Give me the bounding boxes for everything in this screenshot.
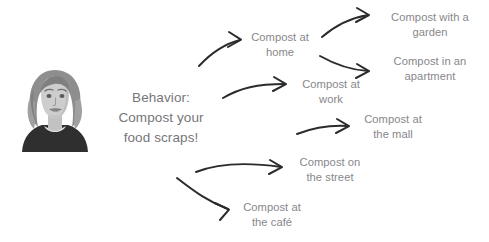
node-apartment-line-1: Compost in an [378, 54, 482, 69]
node-home-line-1: Compost at [243, 30, 317, 45]
node-compost-with-a-garden[interactable]: Compost with a garden [378, 10, 482, 39]
behavior-line-3: food scraps! [103, 128, 219, 148]
arrow-home-to-garden-icon [322, 8, 369, 37]
avatar [20, 66, 90, 152]
node-work-line-1: Compost at [294, 77, 368, 92]
behavior-tree-diagram: Behavior: Compost your food scraps! [0, 0, 489, 242]
node-compost-at-work[interactable]: Compost at work [294, 77, 368, 106]
node-mall-line-2: the mall [356, 127, 430, 142]
node-garden-line-2: garden [378, 25, 482, 40]
node-compost-at-home[interactable]: Compost at home [243, 30, 317, 59]
node-cafe-line-1: Compost at [234, 200, 310, 215]
node-cafe-line-2: the café [234, 215, 310, 230]
arrow-home-to-apartment-icon [320, 56, 369, 78]
node-work-line-2: work [294, 92, 368, 107]
behavior-line-2: Compost your [103, 108, 219, 128]
arrow-behavior-to-cafe-icon [177, 178, 229, 220]
behavior-line-1: Behavior: [103, 88, 219, 108]
node-mall-line-1: Compost at [356, 112, 430, 127]
node-street-line-2: the street [292, 170, 368, 185]
arrow-behavior-to-street-icon [196, 160, 282, 174]
node-compost-at-the-cafe[interactable]: Compost at the café [234, 200, 310, 229]
node-street-line-1: Compost on [292, 155, 368, 170]
node-apartment-line-2: apartment [378, 69, 482, 84]
arrow-behavior-to-home-icon [199, 32, 241, 66]
node-garden-line-1: Compost with a [378, 10, 482, 25]
node-compost-on-the-street[interactable]: Compost on the street [292, 155, 368, 184]
arrow-behavior-to-mall-icon [297, 119, 349, 134]
behavior-statement: Behavior: Compost your food scraps! [103, 88, 219, 148]
node-home-line-2: home [243, 45, 317, 60]
arrow-behavior-to-work-icon [223, 77, 286, 98]
node-compost-at-the-mall[interactable]: Compost at the mall [356, 112, 430, 141]
node-compost-in-an-apartment[interactable]: Compost in an apartment [378, 54, 482, 83]
